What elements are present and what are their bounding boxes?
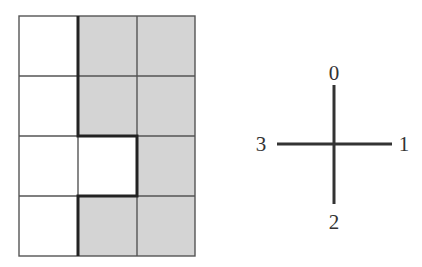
grid-cell-r1-c2: [137, 76, 195, 136]
grid-cell-r0-c2: [137, 16, 195, 76]
grid-cell-r3-c0: [19, 196, 78, 256]
grid-cell-r0-c1: [78, 16, 137, 76]
direction-label-down: 2: [329, 210, 340, 234]
grid-cell-r2-c0: [19, 136, 78, 196]
grid-cell-r1-c1: [78, 76, 137, 136]
grid: [19, 16, 195, 256]
grid-cell-r3-c2: [137, 196, 195, 256]
direction-label-up: 0: [329, 61, 340, 85]
grid-cell-r2-c2: [137, 136, 195, 196]
grid-cell-r1-c0: [19, 76, 78, 136]
direction-label-left: 3: [256, 132, 267, 156]
grid-cell-r2-c1: [78, 136, 137, 196]
grid-cell-r3-c1: [78, 196, 137, 256]
diagram-canvas: 0 1 2 3: [0, 0, 422, 267]
direction-label-right: 1: [399, 132, 410, 156]
grid-cell-r0-c0: [19, 16, 78, 76]
direction-cross: 0 1 2 3: [256, 61, 410, 234]
